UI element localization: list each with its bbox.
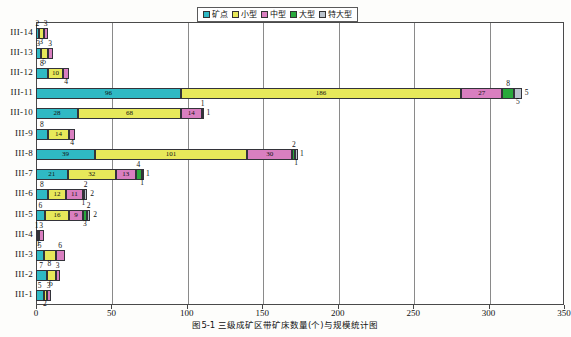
y-axis-label-III-3: III-3 xyxy=(15,250,33,259)
bar-row-III-5[interactable]: 1696322 xyxy=(36,210,564,221)
x-tick-label: 0 xyxy=(34,309,39,318)
bar-value-label: 14 xyxy=(188,110,195,117)
bar-end-label: 1 xyxy=(206,109,210,117)
bar-row-III-8[interactable]: 3910130211 xyxy=(36,149,564,160)
bar-end-label: 2 xyxy=(93,211,97,219)
legend-kuangdian[interactable]: 矿点 xyxy=(203,11,228,19)
bar-segment-中型[interactable]: 13 xyxy=(116,169,136,180)
bar-value-label: 16 xyxy=(54,212,61,219)
bar-segment-中型[interactable]: 14 xyxy=(181,108,202,119)
bar-value-label: 68 xyxy=(126,110,133,117)
bar-value-label: 11 xyxy=(71,191,78,198)
bar-value-label-outside: 2 xyxy=(36,20,40,28)
bar-value-label: 27 xyxy=(478,90,485,97)
bar-segment-矿点[interactable] xyxy=(36,189,48,200)
bar-segment-中型[interactable] xyxy=(44,28,49,39)
bar-end-label: 1 xyxy=(300,150,304,158)
bar-row-III-9[interactable]: 1484 xyxy=(36,129,564,140)
bar-segment-矿点[interactable]: 96 xyxy=(36,88,181,99)
bar-end-label: 1 xyxy=(146,170,150,178)
legend-tedaxing[interactable]: 特大型 xyxy=(319,11,352,19)
figure-caption: 图5-1 三级成矿区带矿床数量(个)与规模统计图 xyxy=(0,320,570,330)
bar-value-label-outside: 3 xyxy=(56,262,60,270)
y-axis-label-III-4: III-4 xyxy=(15,230,33,239)
bar-segment-中型[interactable]: 9 xyxy=(69,210,83,221)
x-axis: 050100150200250300350 xyxy=(36,305,564,321)
y-axis-label-III-9: III-9 xyxy=(15,129,33,138)
bar-segment-中型[interactable]: 11 xyxy=(66,189,83,200)
legend-label: 大型 xyxy=(299,11,315,19)
bar-segment-小型[interactable]: 16 xyxy=(45,210,69,221)
bar-segment-中型[interactable]: 27 xyxy=(461,88,502,99)
x-tick-label: 300 xyxy=(482,309,496,318)
bar-segment-特大型[interactable] xyxy=(87,210,90,221)
bar-value-label-outside: 8 xyxy=(40,181,44,189)
bar-value-label-outside: 1 xyxy=(82,199,86,207)
bar-row-III-11[interactable]: 9618627855 xyxy=(36,88,564,99)
bar-segment-矿点[interactable] xyxy=(36,129,48,140)
legend-xiaoxing[interactable]: 小型 xyxy=(232,11,257,19)
bar-segment-小型[interactable]: 14 xyxy=(48,129,69,140)
bar-row-III-10[interactable]: 28681411 xyxy=(36,108,564,119)
bar-value-label: 30 xyxy=(266,151,273,158)
bar-row-III-7[interactable]: 213213411 xyxy=(36,169,564,180)
x-tick-label: 250 xyxy=(406,309,420,318)
bar-segment-矿点[interactable] xyxy=(36,250,44,261)
bar-value-label: 21 xyxy=(48,171,55,178)
bar-row-III-1[interactable]: 523 xyxy=(36,290,564,301)
bar-value-label-outside: 6 xyxy=(58,242,62,250)
bar-segment-矿点[interactable]: 21 xyxy=(36,169,68,180)
bar-row-III-13[interactable]: 353 xyxy=(36,48,564,59)
x-tick-label: 50 xyxy=(107,309,116,318)
bar-segment-小型[interactable]: 68 xyxy=(78,108,181,119)
y-axis-label-III-7: III-7 xyxy=(15,169,33,178)
bar-segment-矿点[interactable] xyxy=(36,68,48,79)
bar-value-label: 12 xyxy=(54,191,61,198)
bar-row-III-12[interactable]: 1084 xyxy=(36,68,564,79)
legend-daxing[interactable]: 大型 xyxy=(290,11,315,19)
legend-zhongxing[interactable]: 中型 xyxy=(261,11,286,19)
bar-value-label: 32 xyxy=(88,171,95,178)
y-axis-label-III-1: III-1 xyxy=(15,290,33,299)
bar-segment-矿点[interactable]: 39 xyxy=(36,149,95,160)
bar-value-label-outside: 1 xyxy=(294,159,298,167)
bar-segment-中型[interactable] xyxy=(56,270,61,281)
bar-segment-中型[interactable] xyxy=(48,48,53,59)
bar-row-III-2[interactable]: 763 xyxy=(36,270,564,281)
bar-value-label-outside: 8 xyxy=(506,80,510,88)
bar-value-label: 39 xyxy=(62,151,69,158)
bar-segment-小型[interactable]: 10 xyxy=(48,68,63,79)
bar-value-label: 186 xyxy=(316,90,327,97)
legend-label: 小型 xyxy=(241,11,257,19)
bar-segment-小型[interactable]: 186 xyxy=(181,88,462,99)
bar-value-label-outside: 3 xyxy=(47,282,51,290)
x-tick-label: 100 xyxy=(180,309,194,318)
bar-segment-矿点[interactable] xyxy=(36,210,45,221)
bar-row-III-14[interactable]: 233 xyxy=(36,28,564,39)
bar-segment-大型[interactable] xyxy=(502,88,514,99)
bar-row-III-6[interactable]: 12118122 xyxy=(36,189,564,200)
bar-segment-矿点[interactable] xyxy=(36,270,47,281)
bar-segment-大型[interactable] xyxy=(202,108,204,119)
bar-segment-小型[interactable]: 12 xyxy=(48,189,66,200)
y-axis-label-III-2: III-2 xyxy=(15,270,33,279)
bar-segment-小型[interactable]: 101 xyxy=(95,149,247,160)
bar-value-label-outside: 8 xyxy=(48,260,52,268)
bar-value-label-outside: 2 xyxy=(292,141,296,149)
bar-value-label-outside: 8 xyxy=(40,121,44,129)
bar-value-label: 14 xyxy=(55,131,62,138)
bar-segment-中型[interactable] xyxy=(47,290,52,301)
bar-value-label: 9 xyxy=(74,212,78,219)
bar-segment-中型[interactable]: 30 xyxy=(247,149,292,160)
bar-value-label: 13 xyxy=(122,171,129,178)
bar-value-label-outside: 3 xyxy=(83,220,87,228)
bar-row-III-4[interactable]: 113 xyxy=(36,230,564,241)
bar-row-III-3[interactable]: 586 xyxy=(36,250,564,261)
bar-segment-小型[interactable]: 32 xyxy=(68,169,116,180)
y-axis-label-III-5: III-5 xyxy=(15,210,33,219)
bar-segment-矿点[interactable]: 28 xyxy=(36,108,78,119)
y-axis-label-III-8: III-8 xyxy=(15,149,33,158)
bar-value-label-outside: 5 xyxy=(516,98,520,106)
legend-swatch-icon xyxy=(290,11,297,18)
bar-segment-中型[interactable] xyxy=(56,250,65,261)
